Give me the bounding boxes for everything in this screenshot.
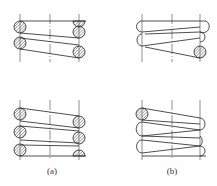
wire-section [14, 37, 26, 49]
panel-a-bottom-coils [20, 108, 86, 156]
wire-section [14, 108, 26, 120]
panel-a-top-wire-sections [14, 21, 85, 58]
panel-b [136, 14, 209, 160]
wire-section [73, 46, 85, 58]
panel-b-caption: (b) [157, 166, 187, 176]
panel-a [14, 14, 86, 160]
spring-diagram [0, 0, 217, 186]
panel-a-caption: (a) [37, 166, 67, 176]
wire-section [14, 144, 26, 156]
wire-section [73, 116, 85, 128]
wire-section-half [73, 21, 85, 27]
wire-section [14, 126, 26, 138]
wire-section [73, 26, 85, 38]
wire-section-half [73, 150, 85, 156]
panel-b-top-wire-section [194, 46, 206, 58]
panel-b-bottom-wire-section [136, 108, 148, 120]
wire-section [14, 21, 26, 33]
panel-a-top-coils [20, 21, 79, 58]
wire-section [73, 132, 85, 144]
